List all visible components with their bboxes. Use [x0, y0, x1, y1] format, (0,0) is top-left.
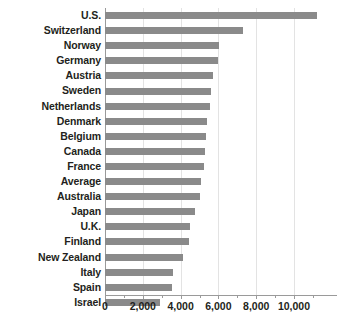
- category-label: Germany: [0, 53, 101, 68]
- x-axis-tick: [218, 295, 219, 299]
- x-axis-minor-tick: [200, 295, 201, 298]
- bar-row: U.K.: [0, 219, 340, 234]
- category-label: Japan: [0, 204, 101, 219]
- category-label: U.S.: [0, 8, 101, 23]
- bar-track: [105, 53, 218, 68]
- bar-row: Belgium: [0, 129, 340, 144]
- x-tick-label: 0: [102, 300, 108, 312]
- bar-track: [105, 159, 204, 174]
- bar-track: [105, 204, 195, 219]
- category-label: Netherlands: [0, 99, 101, 114]
- bar-track: [105, 144, 205, 159]
- x-tick-label: 8,000: [243, 300, 269, 312]
- category-label: France: [0, 159, 101, 174]
- bar: [105, 254, 183, 261]
- bar-track: [105, 129, 206, 144]
- bar: [105, 163, 204, 170]
- bar-row: Sweden: [0, 83, 340, 98]
- x-axis-minor-tick: [237, 295, 238, 298]
- category-label: Denmark: [0, 114, 101, 129]
- category-label: Italy: [0, 265, 101, 280]
- x-axis-minor-tick: [275, 295, 276, 298]
- bar: [105, 118, 207, 125]
- x-tick-label: 4,000: [167, 300, 193, 312]
- bar: [105, 57, 218, 64]
- bar-row: Japan: [0, 204, 340, 219]
- category-label: Switzerland: [0, 23, 101, 38]
- bar-track: [105, 38, 219, 53]
- bar-row: Australia: [0, 189, 340, 204]
- x-axis-tick: [143, 295, 144, 299]
- x-tick-label: 2,000: [130, 300, 156, 312]
- bar-row: Norway: [0, 38, 340, 53]
- x-axis-minor-tick: [313, 295, 314, 298]
- x-tick-label: 10,000: [278, 300, 310, 312]
- category-label: Average: [0, 174, 101, 189]
- bar: [105, 223, 190, 230]
- bar-row: Austria: [0, 68, 340, 83]
- bar-track: [105, 23, 243, 38]
- bar: [105, 27, 243, 34]
- bar: [105, 284, 172, 291]
- bar: [105, 103, 210, 110]
- x-tick-label: 6,000: [205, 300, 231, 312]
- bar-row: U.S.: [0, 8, 340, 23]
- category-label: Belgium: [0, 129, 101, 144]
- x-axis-tick: [105, 295, 106, 299]
- bar-track: [105, 219, 190, 234]
- bar-track: [105, 280, 172, 295]
- bar: [105, 178, 201, 185]
- bar-track: [105, 114, 207, 129]
- x-axis-minor-tick: [162, 295, 163, 298]
- bar-rows: U.S.SwitzerlandNorwayGermanyAustriaSwede…: [0, 8, 340, 295]
- bar-row: Switzerland: [0, 23, 340, 38]
- x-axis-minor-tick: [124, 295, 125, 298]
- bar-row: New Zealand: [0, 250, 340, 265]
- bar-track: [105, 174, 201, 189]
- bar-track: [105, 234, 189, 249]
- x-axis-tick: [256, 295, 257, 299]
- category-label: New Zealand: [0, 250, 101, 265]
- bar-row: Italy: [0, 265, 340, 280]
- bar: [105, 88, 211, 95]
- category-label: Austria: [0, 68, 101, 83]
- bar: [105, 208, 195, 215]
- category-label: Canada: [0, 144, 101, 159]
- bar: [105, 133, 206, 140]
- bar-row: Finland: [0, 234, 340, 249]
- bar-track: [105, 68, 213, 83]
- bar: [105, 12, 317, 19]
- bar-row: Spain: [0, 280, 340, 295]
- bar-row: France: [0, 159, 340, 174]
- bar-track: [105, 250, 183, 265]
- bar-row: Denmark: [0, 114, 340, 129]
- bar-row: Germany: [0, 53, 340, 68]
- bar: [105, 72, 213, 79]
- bar-track: [105, 83, 211, 98]
- bar: [105, 148, 205, 155]
- category-label: Sweden: [0, 83, 101, 98]
- x-axis-tick-labels: 02,0004,0006,0008,00010,000: [0, 300, 340, 320]
- bar-track: [105, 265, 173, 280]
- x-axis-tick: [181, 295, 182, 299]
- category-label: U.K.: [0, 219, 101, 234]
- category-label: Australia: [0, 189, 101, 204]
- bar-row: Average: [0, 174, 340, 189]
- category-label: Finland: [0, 234, 101, 249]
- category-label: Norway: [0, 38, 101, 53]
- bar: [105, 42, 219, 49]
- bar-row: Canada: [0, 144, 340, 159]
- bar-track: [105, 189, 200, 204]
- bar-track: [105, 8, 317, 23]
- bar-chart: U.S.SwitzerlandNorwayGermanyAustriaSwede…: [0, 0, 340, 323]
- bar-track: [105, 99, 210, 114]
- category-label: Spain: [0, 280, 101, 295]
- bar: [105, 238, 189, 245]
- bar: [105, 193, 200, 200]
- bar: [105, 269, 173, 276]
- bar-row: Netherlands: [0, 99, 340, 114]
- x-axis-tick: [294, 295, 295, 299]
